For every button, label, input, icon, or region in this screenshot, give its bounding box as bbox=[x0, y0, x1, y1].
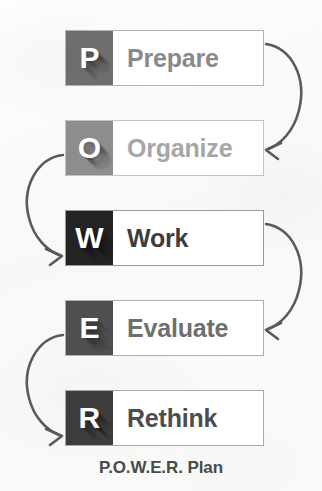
letter-cell-organize: O O bbox=[66, 121, 113, 175]
step-label-evaluate: Evaluate bbox=[113, 301, 263, 355]
letter-cell-work: W W bbox=[66, 211, 113, 265]
power-plan-diagram: .conn { fill: none; stroke: #5a5a5a; str… bbox=[0, 0, 322, 491]
step-row-work[interactable]: W W Work bbox=[65, 210, 264, 266]
letter-glyph-r: R bbox=[79, 403, 101, 433]
letter-glyph-e: E bbox=[79, 313, 99, 343]
letter-glyph-p: P bbox=[79, 43, 99, 73]
letter-cell-rethink: R R bbox=[66, 391, 113, 445]
step-label-organize: Organize bbox=[113, 121, 263, 175]
connector-work-to-evaluate bbox=[266, 224, 301, 339]
step-label-work: Work bbox=[113, 211, 263, 265]
step-row-evaluate[interactable]: E E Evaluate bbox=[65, 300, 264, 356]
step-row-prepare[interactable]: P P Prepare bbox=[65, 30, 264, 86]
step-row-organize[interactable]: O O Organize bbox=[65, 120, 264, 176]
step-label-prepare: Prepare bbox=[113, 31, 263, 85]
letter-cell-prepare: P P bbox=[66, 31, 113, 85]
letter-cell-evaluate: E E bbox=[66, 301, 113, 355]
connector-evaluate-to-rethink bbox=[27, 335, 63, 445]
letter-glyph-w: W bbox=[75, 223, 104, 253]
diagram-caption: P.O.W.E.R. Plan bbox=[0, 458, 322, 478]
step-row-rethink[interactable]: R R Rethink bbox=[65, 390, 264, 446]
connector-prepare-to-organize bbox=[266, 44, 301, 159]
letter-glyph-o: O bbox=[78, 133, 102, 163]
step-label-rethink: Rethink bbox=[113, 391, 263, 445]
connector-organize-to-work bbox=[27, 155, 63, 265]
